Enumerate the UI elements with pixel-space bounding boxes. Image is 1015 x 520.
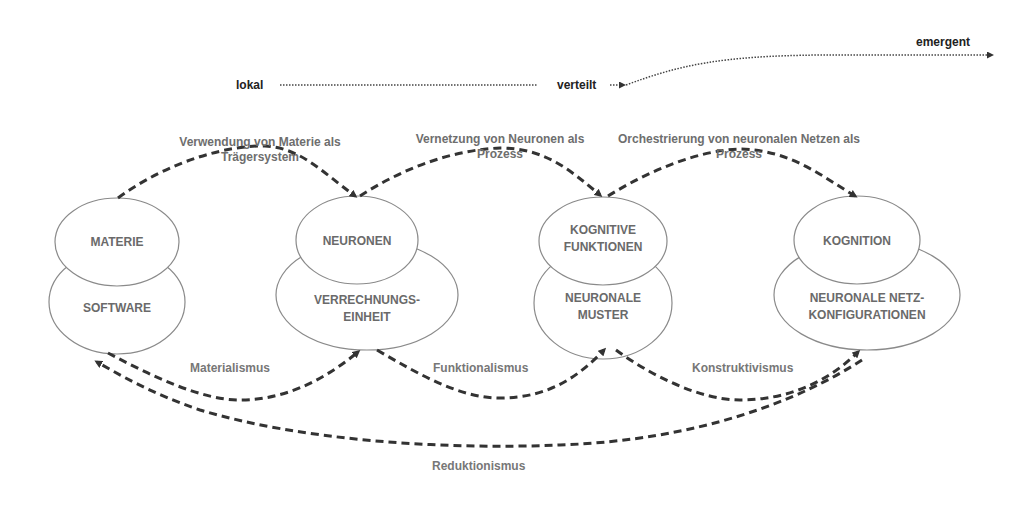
arc-konstruktivismus bbox=[616, 350, 858, 400]
node-group-4 bbox=[774, 196, 960, 350]
diagram-canvas bbox=[0, 0, 1015, 520]
node-neuronale-netzkonfigurationen: NEURONALE NETZ- KONFIGURATIONEN bbox=[792, 290, 942, 324]
node-software: SOFTWARE bbox=[67, 300, 167, 317]
process-label-3: Orchestrierung von neuronalen Netzen als… bbox=[614, 132, 864, 162]
label-reduktionismus: Reduktionismus bbox=[432, 459, 525, 473]
node-kognitive-funktionen: KOGNITIVE FUNKTIONEN bbox=[543, 222, 663, 256]
label-materialismus: Materialismus bbox=[190, 361, 270, 375]
label-funktionalismus: Funktionalismus bbox=[433, 361, 528, 375]
axis-label-verteilt: verteilt bbox=[557, 78, 596, 92]
node-kognition: KOGNITION bbox=[797, 233, 917, 250]
axis-label-lokal: lokal bbox=[236, 78, 263, 92]
node-group-1 bbox=[49, 198, 185, 354]
label-konstruktivismus: Konstruktivismus bbox=[692, 361, 793, 375]
process-label-2: Vernetzung von Neuronen als Prozess bbox=[395, 132, 605, 162]
node-neuronale-muster: NEURONALE MUSTER bbox=[543, 290, 663, 324]
node-neuronen: NEURONEN bbox=[307, 233, 407, 250]
arc-materialismus bbox=[108, 352, 358, 400]
axis-curve-emergent bbox=[626, 55, 992, 85]
process-label-1: Verwendung von Materie als Trägersystem bbox=[155, 135, 365, 165]
node-group-2 bbox=[276, 196, 458, 350]
axis-label-emergent: emergent bbox=[916, 35, 970, 49]
node-verrechnungseinheit: VERRECHNUNGS- EINHEIT bbox=[297, 292, 437, 326]
node-materie: MATERIE bbox=[67, 234, 167, 251]
